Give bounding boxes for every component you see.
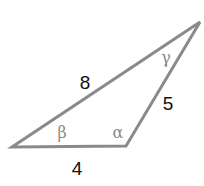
side-label-bottom: 4 <box>72 158 83 179</box>
side-label-right: 5 <box>163 93 174 114</box>
triangle-figure: 4 5 8 β α γ <box>0 0 204 186</box>
triangle-diagram: 4 5 8 β α γ <box>0 0 204 186</box>
angle-label-gamma: γ <box>161 48 171 67</box>
side-label-hypotenuse: 8 <box>80 72 91 93</box>
triangle-shape <box>12 22 200 147</box>
angle-label-alpha: α <box>113 123 124 142</box>
angle-label-beta: β <box>57 123 66 142</box>
